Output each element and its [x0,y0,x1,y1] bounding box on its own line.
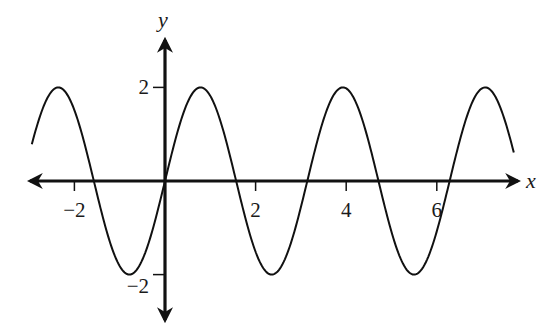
y-tick-label: 2 [139,75,150,99]
x-tick-label: 2 [250,198,261,222]
x-tick-label: 4 [341,198,352,222]
x-tick-label: −2 [63,198,85,222]
y-axis-label: y [156,7,168,32]
sine-chart: −2246 2−2 x y [0,0,553,332]
x-axis-ticks: −2246 [63,181,442,222]
y-axis-ticks: 2−2 [127,75,165,297]
x-axis-label: x [525,168,536,193]
y-tick-label: −2 [127,274,149,298]
